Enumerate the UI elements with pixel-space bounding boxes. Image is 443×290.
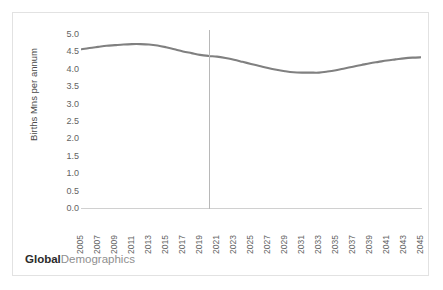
y-axis-tick: 4.0: [66, 64, 79, 74]
series-line-births: [81, 44, 421, 73]
y-axis-tick: 5.0: [66, 29, 79, 39]
y-axis-tick: 2.0: [66, 133, 79, 143]
y-axis-tick: 0.5: [66, 186, 79, 196]
y-axis-tick: 1.5: [66, 151, 79, 161]
y-axis-title: Births Mns per annum: [28, 30, 39, 160]
brand-secondary-text: Demographics: [61, 253, 135, 265]
brand-logo: GlobalDemographics: [25, 253, 135, 265]
x-axis-line: [81, 208, 422, 209]
plot-area: [81, 34, 421, 208]
y-axis-tick-labels: 5.04.54.03.53.02.52.01.51.00.50.0: [53, 28, 79, 214]
y-axis-tick: 4.5: [66, 46, 79, 56]
chart-card: Births Mns per annum 5.04.54.03.53.02.52…: [12, 12, 429, 276]
y-axis-tick: 1.0: [66, 168, 79, 178]
y-axis-tick: 0.0: [66, 203, 79, 213]
brand-primary-text: Global: [25, 253, 61, 265]
forecast-divider-line: [209, 30, 210, 209]
line-chart-svg: [81, 34, 421, 208]
x-axis-tick-labels: 2005200720092011201320152017201920212023…: [81, 212, 422, 256]
y-axis-tick: 2.5: [66, 116, 79, 126]
y-axis-tick: 3.5: [66, 81, 79, 91]
y-axis-tick: 3.0: [66, 99, 79, 109]
